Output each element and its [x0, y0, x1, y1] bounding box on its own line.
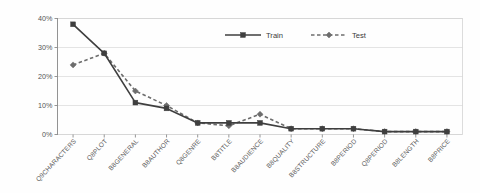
y-tick-label: 10% [38, 101, 53, 110]
legend-label: Test [352, 31, 367, 40]
data-point-marker [133, 100, 138, 105]
data-point-marker [226, 121, 231, 126]
data-point-marker [445, 129, 450, 134]
data-point-marker [382, 129, 387, 134]
x-tick-label: Q8PLOT [85, 137, 109, 162]
data-point-marker [70, 62, 76, 68]
x-tick-label: Q8PERIOD [360, 137, 390, 168]
x-tick-label: B8AUTHOR [141, 137, 171, 169]
x-tick-label: Q9CHARACTERS [34, 137, 78, 183]
data-point-marker [258, 121, 263, 126]
data-point-marker [195, 121, 200, 126]
x-tick-label: B8PERIOD [329, 137, 358, 167]
y-tick-label: 40% [38, 14, 53, 23]
data-point-marker [289, 126, 294, 131]
x-tick-label: B8AUDIENCE [230, 137, 265, 174]
chart-container: 0%10%20%30%40% Q9CHARACTERSQ8PLOTB8GENER… [0, 0, 480, 193]
line-chart: 0%10%20%30%40% Q9CHARACTERSQ8PLOTB8GENER… [0, 0, 480, 193]
data-point-marker [257, 111, 263, 117]
chart-legend: TrainTest [225, 31, 367, 40]
data-point-marker [351, 126, 356, 131]
data-point-marker [326, 32, 332, 38]
y-axis-tick-labels: 0%10%20%30%40% [38, 14, 53, 139]
x-tick-label: B8LENGTH [391, 137, 420, 168]
x-tick-label: B8QUALITY [265, 137, 297, 170]
x-tick-label: B8PRICE [426, 137, 451, 163]
data-point-marker [413, 129, 418, 134]
y-tick-label: 0% [42, 130, 53, 139]
data-point-marker [320, 126, 325, 131]
x-tick-label: B8GENERAL [107, 137, 140, 172]
legend-label: Train [266, 31, 283, 40]
data-point-marker [102, 51, 107, 56]
x-tick-label: Q8GENRE [174, 137, 203, 167]
data-point-marker [71, 22, 76, 27]
y-tick-label: 20% [38, 72, 53, 81]
x-tick-label: B8TITLE [210, 137, 234, 162]
x-axis-tick-labels: Q9CHARACTERSQ8PLOTB8GENERALB8AUTHORQ8GEN… [34, 137, 451, 183]
data-point-marker [164, 106, 169, 111]
data-point-marker [241, 33, 246, 38]
y-tick-label: 30% [38, 43, 53, 52]
x-axis-ticks [73, 135, 447, 138]
